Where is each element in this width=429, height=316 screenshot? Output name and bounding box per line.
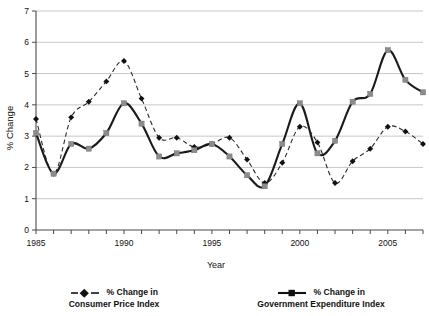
- gridlines: [36, 11, 423, 199]
- data-point-cpi: [227, 135, 233, 141]
- series-markers-consumer-price-index: [33, 58, 426, 186]
- x-axis-ticks: [36, 230, 423, 234]
- data-point-gov: [244, 173, 249, 178]
- data-point-cpi: [174, 135, 180, 141]
- data-point-gov: [51, 171, 56, 176]
- data-point-gov: [332, 138, 337, 143]
- x-axis-title: Year: [207, 260, 225, 270]
- legend-label-gov-line2: Government Expenditure Index: [216, 298, 426, 310]
- legend-swatch-solid-square-icon: [277, 288, 307, 298]
- legend-label-gov-line1: % Change in: [313, 287, 365, 297]
- data-point-gov: [280, 141, 285, 146]
- data-point-gov: [174, 151, 179, 156]
- x-tick-label: 1985: [27, 238, 46, 248]
- y-tick-label: 1: [24, 194, 29, 204]
- data-point-gov: [315, 151, 320, 156]
- data-point-cpi: [139, 96, 145, 102]
- data-point-gov: [139, 121, 144, 126]
- data-point-gov: [350, 99, 355, 104]
- data-point-cpi: [121, 58, 127, 64]
- chart-container: 01234567 19851990199520002005 % Change Y…: [0, 0, 429, 316]
- data-point-gov: [403, 77, 408, 82]
- data-point-gov: [157, 154, 162, 159]
- data-point-gov: [420, 90, 425, 95]
- legend-item-consumer-price-index: % Change in Consumer Price Index: [18, 286, 210, 310]
- data-point-gov: [192, 148, 197, 153]
- data-point-gov: [104, 130, 109, 135]
- legend-swatch-dashed-diamond-icon: [70, 288, 100, 298]
- y-tick-label: 6: [24, 37, 29, 47]
- y-tick-labels: 01234567: [24, 6, 29, 235]
- data-point-cpi: [279, 160, 285, 166]
- y-tick-label: 0: [24, 225, 29, 235]
- series-line-government-expenditure-index: [36, 50, 423, 188]
- x-tick-label: 1990: [114, 238, 133, 248]
- legend-label-cpi-line1: % Change in: [106, 287, 158, 297]
- line-chart: 01234567 19851990199520002005 % Change Y…: [0, 0, 429, 276]
- data-point-gov: [209, 141, 214, 146]
- data-point-gov: [385, 48, 390, 53]
- y-tick-label: 5: [24, 69, 29, 79]
- x-tick-label: 2000: [290, 238, 309, 248]
- legend-label-cpi-line2: Consumer Price Index: [18, 298, 210, 310]
- y-tick-label: 3: [24, 131, 29, 141]
- y-tick-label: 7: [24, 6, 29, 16]
- data-point-gov: [69, 141, 74, 146]
- data-point-gov: [227, 154, 232, 159]
- data-point-cpi: [68, 114, 74, 120]
- chart-legend: % Change in Consumer Price Index % Chang…: [0, 274, 429, 314]
- data-point-gov: [86, 146, 91, 151]
- data-point-gov: [121, 101, 126, 106]
- x-tick-label: 1995: [202, 238, 221, 248]
- x-tick-label: 2005: [378, 238, 397, 248]
- data-point-gov: [368, 91, 373, 96]
- data-point-gov: [33, 130, 38, 135]
- data-point-gov: [262, 184, 267, 189]
- legend-item-government-expenditure-index: % Change in Government Expenditure Index: [216, 286, 426, 310]
- x-tick-labels: 19851990199520002005: [27, 238, 398, 248]
- y-tick-label: 2: [24, 162, 29, 172]
- series-line-consumer-price-index: [36, 61, 423, 184]
- y-axis-title: % Change: [4, 106, 15, 150]
- y-tick-label: 4: [24, 100, 29, 110]
- data-point-gov: [297, 101, 302, 106]
- data-point-cpi: [402, 128, 408, 134]
- data-point-cpi: [33, 116, 39, 122]
- data-point-cpi: [314, 139, 320, 145]
